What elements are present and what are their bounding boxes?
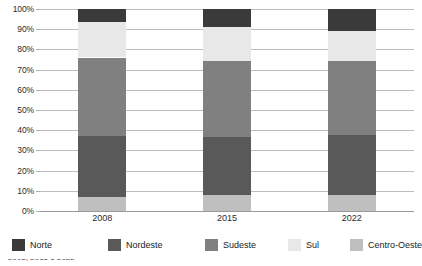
x-tick-label: 2008 <box>92 213 112 224</box>
bar-segment <box>78 58 126 137</box>
axis-baseline <box>40 211 414 212</box>
legend-label: Norte <box>30 240 52 250</box>
legend-label: Centro-Oeste <box>368 240 422 250</box>
legend-item: Sudeste <box>205 238 256 252</box>
bar-segment <box>78 136 126 197</box>
y-tick-label: 70% <box>17 65 34 74</box>
legend-swatch-icon <box>288 239 301 251</box>
bar-segment <box>203 27 251 60</box>
bar-segment <box>328 135 376 195</box>
y-tick-label: 60% <box>17 86 34 95</box>
legend-label: Sudeste <box>223 240 256 250</box>
y-tick-label: 20% <box>17 166 34 175</box>
legend-swatch-icon <box>350 239 363 251</box>
legend-item: Sul <box>288 238 319 252</box>
bar-segment <box>203 61 251 138</box>
y-tick-label: 90% <box>17 25 34 34</box>
x-tick-label: 2015 <box>217 213 237 224</box>
bar-group <box>78 9 126 211</box>
clipped-caption: 2008, 2015 e 2022 <box>0 259 421 266</box>
plot-area: 0%10%20%30%40%50%60%70%80%90%100% <box>0 0 421 220</box>
bar-segment <box>328 9 376 31</box>
legend-label: Sul <box>306 240 319 250</box>
bar-group <box>203 9 251 211</box>
legend-swatch-icon <box>205 239 218 251</box>
y-tick-label: 30% <box>17 146 34 155</box>
legend-label: Nordeste <box>126 240 163 250</box>
bar-segment <box>78 9 126 22</box>
bar-segment <box>203 137 251 195</box>
bar-segment <box>203 9 251 27</box>
y-axis: 0%10%20%30%40%50%60%70%80%90%100% <box>0 0 36 220</box>
bar-segment <box>203 195 251 211</box>
y-tick-label: 50% <box>17 106 34 115</box>
bar-segment <box>328 61 376 136</box>
legend-item: Nordeste <box>108 238 163 252</box>
caption-text: 2008, 2015 e 2022 <box>8 259 75 263</box>
chart-legend: NorteNordesteSudesteSulCentro-Oeste <box>0 238 421 254</box>
bar-segment <box>328 31 376 60</box>
legend-swatch-icon <box>108 239 121 251</box>
x-tick-label: 2022 <box>342 213 362 224</box>
y-tick-label: 0% <box>22 207 34 216</box>
bar-segment <box>78 197 126 211</box>
legend-item: Centro-Oeste <box>350 238 422 252</box>
y-tick-label: 80% <box>17 45 34 54</box>
y-tick-label: 100% <box>13 5 34 14</box>
y-tick-label: 10% <box>17 187 34 196</box>
bar-group <box>328 9 376 211</box>
bars-layer <box>40 9 414 211</box>
bar-segment <box>78 22 126 57</box>
x-axis: 200820152022 <box>40 213 414 229</box>
legend-item: Norte <box>12 238 52 252</box>
y-tick-label: 40% <box>17 126 34 135</box>
bar-segment <box>328 195 376 211</box>
legend-swatch-icon <box>12 239 25 251</box>
